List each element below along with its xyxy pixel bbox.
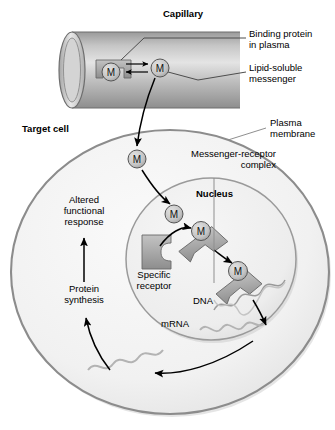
messenger-label: M [197, 226, 205, 237]
messenger-label: M [170, 209, 178, 220]
label-specific-receptor: Specific receptor [126, 269, 182, 291]
label-altered-functional-response: Altered functional response [51, 194, 117, 227]
label-nucleus: Nucleus [196, 188, 233, 199]
messenger-label: M [234, 266, 242, 277]
messenger-label: M [156, 63, 164, 74]
messenger-label: M [107, 67, 115, 78]
label-lipid-soluble-messenger: Lipid-soluble messenger [249, 62, 302, 84]
messenger-bound-in-plasma: M [102, 63, 120, 81]
label-protein-synthesis: Protein synthesis [53, 283, 115, 305]
capillary-vessel [59, 32, 240, 108]
label-messenger-receptor-complex: Messenger-receptor complex [158, 148, 276, 170]
capillary-lumen [64, 38, 81, 102]
messenger-on-receptor: M [192, 222, 211, 241]
leader-plasma-membrane [228, 128, 266, 140]
messenger-label: M [133, 154, 141, 165]
messenger-free-in-plasma: M [151, 59, 169, 77]
signal-transduction-diagram: M M M M M M [0, 0, 335, 430]
messenger-in-cytosol: M [128, 150, 146, 168]
label-mrna: mRNA [161, 318, 189, 329]
messenger-complex-on-dna: M [229, 262, 248, 281]
label-dna: DNA [193, 295, 213, 306]
label-capillary: Capillary [163, 8, 203, 19]
label-binding-protein: Binding protein in plasma [249, 28, 312, 50]
label-plasma-membrane: Plasma membrane [270, 117, 315, 139]
label-target-cell: Target cell [22, 123, 69, 134]
messenger-entering-nucleus: M [165, 205, 183, 223]
